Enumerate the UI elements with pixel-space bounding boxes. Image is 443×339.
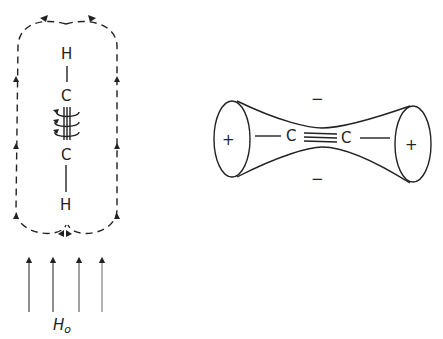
sign-plus-right: + — [405, 136, 418, 154]
atom-c-bottom: C — [61, 146, 71, 164]
triple-bond-line — [304, 141, 337, 142]
atom-h-bottom: H — [60, 196, 71, 214]
atom-c-top: C — [61, 87, 71, 105]
applied-field-arrows: Ho — [29, 260, 102, 336]
arrow-icon — [53, 119, 59, 124]
right-field-loop — [66, 22, 117, 234]
atom-c-right: C — [341, 129, 351, 147]
atom-c-left: C — [286, 127, 296, 145]
shielding-cone: + + − − C C — [214, 90, 431, 188]
arrow-up-icon — [114, 213, 120, 219]
ring-current-icon — [57, 112, 79, 117]
acetylene-molecule: H C C H — [53, 45, 79, 214]
atom-h-top: H — [61, 45, 72, 63]
arrow-up-icon — [13, 143, 19, 149]
diagram-canvas: H C C H Ho + + − − C — [0, 0, 443, 339]
arrow-icon — [53, 109, 59, 114]
field-label: Ho — [53, 316, 71, 336]
triple-bond-line — [304, 133, 337, 134]
diagram-svg: H C C H Ho + + − − C — [0, 0, 443, 339]
arrow-up-icon — [114, 143, 120, 149]
arrow-icon — [40, 15, 48, 22]
sign-minus-top: − — [311, 90, 324, 108]
left-field-loop — [16, 22, 66, 234]
triple-bond-line — [304, 137, 337, 138]
arrow-icon — [88, 15, 96, 22]
sign-plus-left: + — [222, 131, 235, 149]
arrow-up-icon — [13, 76, 19, 82]
arrow-icon — [53, 129, 59, 134]
sign-minus-bottom: − — [311, 170, 324, 188]
arrow-icon — [66, 230, 72, 237]
arrow-up-icon — [13, 213, 19, 219]
arrow-up-icon — [114, 76, 120, 82]
